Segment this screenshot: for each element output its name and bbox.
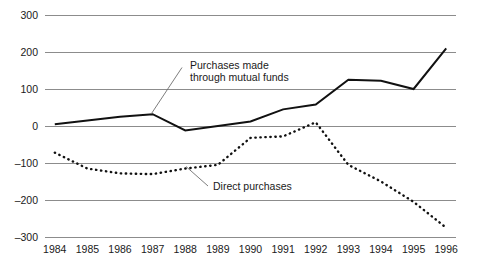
x-tick-label-1986: 1986	[108, 243, 132, 255]
x-tick-label-1991: 1991	[271, 243, 295, 255]
x-tick-label-1994: 1994	[369, 243, 393, 255]
y-tick-label--100: –100	[15, 157, 39, 169]
y-tick-label-100: 100	[20, 83, 38, 95]
chart-background	[0, 0, 477, 265]
x-tick-label-1993: 1993	[337, 243, 361, 255]
x-tick-label-1985: 1985	[76, 243, 100, 255]
x-tick-label-1995: 1995	[402, 243, 426, 255]
x-tick-label-1992: 1992	[304, 243, 328, 255]
x-tick-label-1987: 1987	[141, 243, 165, 255]
line-chart: 3002001000–100–200–300 19841985198619871…	[0, 0, 477, 265]
x-tick-label-1989: 1989	[206, 243, 230, 255]
x-tick-label-1996: 1996	[435, 243, 459, 255]
chart-container: 3002001000–100–200–300 19841985198619871…	[0, 0, 477, 265]
y-tick-label--200: –200	[15, 194, 39, 206]
x-tick-label-1984: 1984	[43, 243, 67, 255]
x-tick-label-1990: 1990	[239, 243, 263, 255]
y-tick-label-0: 0	[32, 120, 38, 132]
y-tick-label-300: 300	[20, 9, 38, 21]
y-tick-label--300: –300	[15, 231, 39, 243]
y-tick-label-200: 200	[20, 46, 38, 58]
annotation-direct-purchases: Direct purchases	[213, 180, 292, 192]
annotation-mutual-funds-line1: Purchases made	[190, 59, 269, 71]
x-tick-label-1988: 1988	[174, 243, 198, 255]
annotation-mutual-funds-line2: through mutual funds	[190, 71, 289, 83]
